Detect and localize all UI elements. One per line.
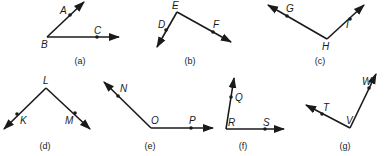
point-marker xyxy=(189,126,193,130)
point-label: M xyxy=(65,115,74,126)
ray xyxy=(268,5,327,39)
figure-caption: (d) xyxy=(40,141,51,151)
figure-caption: (c) xyxy=(315,56,326,66)
point-label: I xyxy=(346,19,349,30)
figure-caption: (f) xyxy=(239,141,248,151)
angle-figure: GIH(c) xyxy=(268,3,364,66)
vertex-label: R xyxy=(228,117,235,128)
point-label: S xyxy=(263,117,270,128)
ray xyxy=(177,12,231,42)
vertex-label: B xyxy=(41,39,48,50)
angle-figure: DFE(b) xyxy=(157,0,231,66)
point-marker xyxy=(211,30,215,34)
point-label: G xyxy=(286,3,294,14)
point-marker xyxy=(73,111,77,115)
point-label: T xyxy=(323,102,330,113)
angle-figure: KML(d) xyxy=(4,75,90,151)
vertex-label: O xyxy=(151,115,159,126)
vertex-label: E xyxy=(172,0,179,11)
point-label: K xyxy=(20,115,28,126)
point-label: N xyxy=(120,83,128,94)
point-label: C xyxy=(94,25,102,36)
point-label: W xyxy=(362,76,373,87)
vertex-label: L xyxy=(43,75,49,86)
point-label: F xyxy=(213,19,220,30)
point-marker xyxy=(15,112,19,116)
vertex-label: H xyxy=(322,41,330,52)
point-marker xyxy=(285,14,289,18)
figure-caption: (g) xyxy=(340,141,351,151)
figure-caption: (a) xyxy=(75,56,86,66)
point-marker xyxy=(229,95,233,99)
angle-figure: NPO(e) xyxy=(104,82,213,151)
point-marker xyxy=(116,94,120,98)
figure-caption: (e) xyxy=(145,141,156,151)
angle-figure: TWV(g) xyxy=(306,74,376,151)
point-label: Q xyxy=(235,92,243,103)
ray xyxy=(104,82,151,128)
point-marker xyxy=(68,13,72,17)
point-label: P xyxy=(189,115,196,126)
figure-caption: (b) xyxy=(185,56,196,66)
angles-diagram: ACB(a)DFE(b)GIH(c)KML(d)NPO(e)QSR(f)TWV(… xyxy=(0,0,386,156)
angles-figure: ACB(a)DFE(b)GIH(c)KML(d)NPO(e)QSR(f)TWV(… xyxy=(0,0,386,156)
point-label: A xyxy=(59,5,67,16)
point-label: D xyxy=(158,19,165,30)
angle-figure: ACB(a) xyxy=(41,2,119,66)
angle-figure: QSR(f) xyxy=(226,78,284,151)
